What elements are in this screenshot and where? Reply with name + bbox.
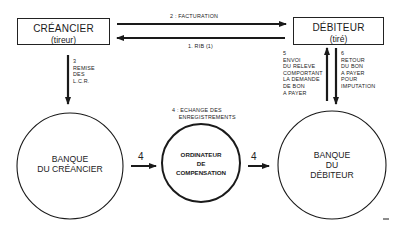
echange-label: 4 : ECHANGE DES ENREGISTREMENTS [172, 107, 236, 120]
retour-label: 6 RETOUR DU BON A PAYER POUR IMPUTATION [341, 50, 375, 90]
arrow-4-right-label: 4 [251, 151, 257, 162]
banque-debiteur-label: BANQUE DU DÉBITEUR [292, 150, 372, 180]
ordinateur-line2: DE [166, 159, 236, 168]
banque-creancier-line2: DU CRÉANCIER [20, 164, 120, 174]
banque-debiteur-line1: BANQUE [292, 150, 372, 160]
facturation-label: 2 : FACTURATION [170, 13, 218, 20]
banque-debiteur-line3: DÉBITEUR [292, 170, 372, 180]
remise-label: 3 REMISE DES L.C.R. [73, 58, 95, 84]
rib-label: 1. RIB (1) [188, 43, 213, 50]
ordinateur-line3: COMPENSATION [166, 168, 236, 177]
banque-creancier-label: BANQUE DU CRÉANCIER [20, 154, 120, 174]
debiteur-title: DÉBITEUR [294, 22, 383, 33]
ordinateur-label: ORDINATEUR DE COMPENSATION [166, 150, 236, 177]
ordinateur-line1: ORDINATEUR [166, 150, 236, 159]
debiteur-subtitle: (tiré) [294, 34, 383, 44]
arrow-4-left-label: 4 [138, 151, 144, 162]
banque-creancier-line1: BANQUE [20, 154, 120, 164]
creancier-subtitle: (tireur) [18, 35, 109, 45]
creancier-title: CRÉANCIER [18, 23, 109, 34]
debiteur-box: DÉBITEUR (tiré) [293, 17, 384, 45]
banque-debiteur-line2: DU [292, 160, 372, 170]
creancier-box: CRÉANCIER (tireur) [17, 18, 110, 45]
envoi-label: 5 ENVOI DU RELEVE COMPORTANT LA DEMANDE … [283, 50, 323, 96]
